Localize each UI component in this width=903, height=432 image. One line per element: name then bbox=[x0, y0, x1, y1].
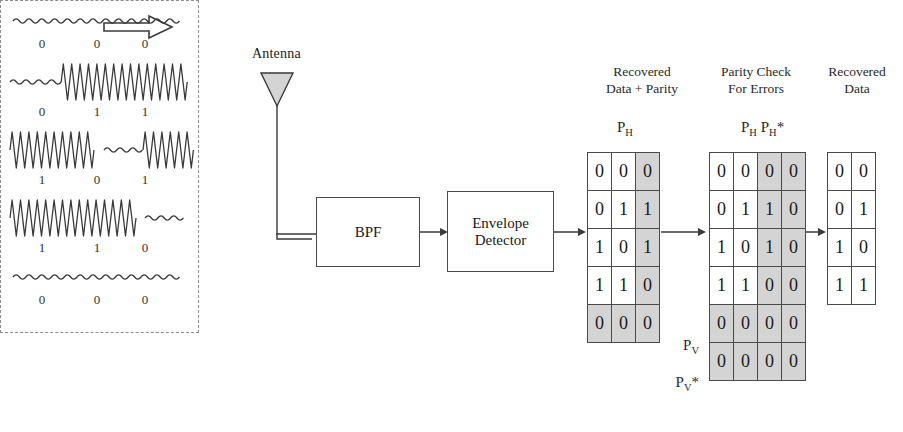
matrix-cell: 0 bbox=[758, 267, 782, 305]
matrix-cell: 0 bbox=[612, 229, 636, 267]
bit-value: 0 bbox=[88, 292, 106, 308]
matrix-cell: 0 bbox=[828, 191, 852, 229]
waveform-row bbox=[0, 60, 199, 100]
matrix-row: 01 bbox=[828, 191, 876, 229]
matrix-cell: 1 bbox=[588, 229, 612, 267]
envelope-detector-block[interactable]: Envelope Detector bbox=[447, 191, 554, 272]
matrix-row: 110 bbox=[588, 267, 660, 305]
envelope-to-matrix1-arrow bbox=[554, 224, 587, 240]
matrix1-parity-h-label: PH bbox=[617, 119, 633, 138]
bit-value: 1 bbox=[88, 104, 106, 120]
matrix-parity-check-for-errors: 000001101010110000000000 bbox=[709, 152, 806, 381]
matrix-cell: 1 bbox=[734, 191, 758, 229]
waveform-bits-row: 1 0 1 bbox=[0, 172, 199, 190]
matrix-cell: 0 bbox=[782, 229, 806, 267]
matrix-cell: 0 bbox=[782, 153, 806, 191]
matrix-row: 0110 bbox=[710, 191, 806, 229]
matrix-cell: 0 bbox=[782, 191, 806, 229]
matrix-row: 000 bbox=[588, 305, 660, 343]
matrix-cell: 0 bbox=[710, 153, 734, 191]
matrix-cell: 0 bbox=[782, 267, 806, 305]
matrix-row: 10 bbox=[828, 229, 876, 267]
matrix-cell: 1 bbox=[734, 267, 758, 305]
matrix-recovered-data-plus-parity: 000011101110000 bbox=[587, 152, 660, 343]
matrix2-caption-line2: For Errors bbox=[700, 81, 812, 98]
bit-value: 1 bbox=[136, 172, 154, 188]
matrix2-parity-v-subscript: V bbox=[691, 345, 699, 356]
matrix-cell: 0 bbox=[782, 343, 806, 381]
matrix-cell: 0 bbox=[588, 305, 612, 343]
bit-value: 1 bbox=[88, 240, 106, 256]
matrix3-caption: Recovered Data bbox=[812, 64, 902, 98]
bit-value: 0 bbox=[136, 292, 154, 308]
matrix-row: 0000 bbox=[710, 343, 806, 381]
matrix-row: 0000 bbox=[710, 305, 806, 343]
matrix-cell: 0 bbox=[734, 343, 758, 381]
matrix-cell: 0 bbox=[828, 153, 852, 191]
matrix-cell: 1 bbox=[588, 267, 612, 305]
bit-value: 0 bbox=[88, 172, 106, 188]
matrix-cell: 0 bbox=[636, 153, 660, 191]
matrix2-caption-line1: Parity Check bbox=[700, 64, 812, 81]
matrix-cell: 1 bbox=[710, 267, 734, 305]
matrix2-parity-vstar-letter: P bbox=[676, 374, 684, 390]
matrix2-parity-v-label: PV bbox=[655, 337, 699, 356]
matrix-cell: 0 bbox=[588, 191, 612, 229]
matrix2-parity-hstar-asterisk: * bbox=[777, 119, 785, 135]
matrix-row: 101 bbox=[588, 229, 660, 267]
matrix-cell: 0 bbox=[758, 343, 782, 381]
matrix-cell: 1 bbox=[710, 229, 734, 267]
bit-value: 1 bbox=[136, 104, 154, 120]
matrix3-caption-line1: Recovered bbox=[812, 64, 902, 81]
matrix2-parity-hstar-letter: P bbox=[761, 119, 769, 135]
matrix-cell: 0 bbox=[852, 229, 876, 267]
waveform-bits-row: 0 1 1 bbox=[0, 104, 199, 122]
bit-value: 0 bbox=[33, 292, 51, 308]
antenna-icon bbox=[252, 68, 312, 246]
matrix-cell: 0 bbox=[758, 153, 782, 191]
matrix-cell: 0 bbox=[734, 305, 758, 343]
waveform-panel: 0 0 0 0 1 1 1 0 1 bbox=[0, 0, 199, 333]
matrix1-caption-line1: Recovered bbox=[582, 64, 702, 81]
matrix-cell: 1 bbox=[636, 229, 660, 267]
bit-value: 0 bbox=[33, 36, 51, 52]
bpf-label: BPF bbox=[355, 224, 382, 241]
matrix-cell: 1 bbox=[758, 191, 782, 229]
bit-value: 1 bbox=[33, 172, 51, 188]
matrix-row: 000 bbox=[588, 153, 660, 191]
matrix2-caption: Parity Check For Errors bbox=[700, 64, 812, 98]
waveform-bits-row: 0 0 0 bbox=[0, 36, 199, 54]
matrix2-parity-vstar-label: PV* bbox=[648, 374, 699, 393]
matrix-cell: 0 bbox=[710, 343, 734, 381]
matrix1-caption: Recovered Data + Parity bbox=[582, 64, 702, 98]
matrix-cell: 1 bbox=[612, 191, 636, 229]
matrix-cell: 1 bbox=[828, 267, 852, 305]
matrix-cell: 1 bbox=[758, 229, 782, 267]
matrix-row: 1100 bbox=[710, 267, 806, 305]
matrix1-to-matrix2-arrow bbox=[661, 224, 707, 240]
matrix-row: 1010 bbox=[710, 229, 806, 267]
matrix-recovered-data: 00011011 bbox=[827, 152, 876, 305]
bit-value: 0 bbox=[136, 36, 154, 52]
matrix-row: 011 bbox=[588, 191, 660, 229]
matrix-cell: 1 bbox=[852, 191, 876, 229]
matrix-cell: 1 bbox=[852, 267, 876, 305]
diagram-canvas: 0 0 0 0 1 1 1 0 1 bbox=[0, 0, 903, 432]
bit-value: 0 bbox=[88, 36, 106, 52]
matrix-cell: 0 bbox=[636, 267, 660, 305]
matrix-cell: 1 bbox=[612, 267, 636, 305]
matrix-cell: 0 bbox=[758, 305, 782, 343]
matrix-cell: 0 bbox=[636, 305, 660, 343]
matrix-cell: 0 bbox=[852, 153, 876, 191]
waveform-row bbox=[0, 196, 199, 236]
matrix-cell: 0 bbox=[710, 191, 734, 229]
waveform-bits-row: 0 0 0 bbox=[0, 292, 199, 310]
matrix-row: 0000 bbox=[710, 153, 806, 191]
envelope-detector-label-line1: Envelope bbox=[472, 215, 529, 231]
bpf-block[interactable]: BPF bbox=[316, 197, 420, 267]
matrix-cell: 0 bbox=[710, 305, 734, 343]
matrix-cell: 0 bbox=[782, 305, 806, 343]
antenna-label: Antenna bbox=[252, 46, 301, 62]
waveform-bits-row: 1 1 0 bbox=[0, 240, 199, 258]
matrix-cell: 0 bbox=[734, 229, 758, 267]
